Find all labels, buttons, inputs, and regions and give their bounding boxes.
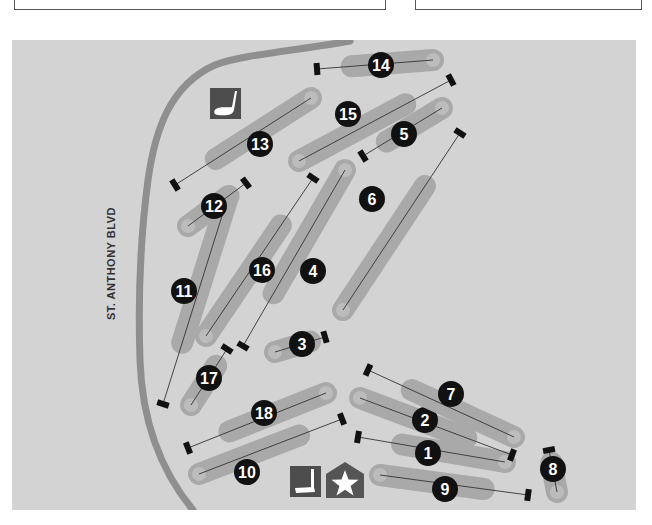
hole-14[interactable]: 14 <box>314 52 440 78</box>
hole-13[interactable]: 13 <box>169 91 318 192</box>
holes-layer: 123456789101112131415161718 <box>156 52 566 502</box>
putter-icon[interactable] <box>290 466 321 497</box>
tee-box <box>314 63 321 75</box>
top-right-panel <box>415 0 642 10</box>
tee-box <box>363 363 373 376</box>
tee-box <box>220 343 233 355</box>
tee-box <box>183 441 193 454</box>
hole-number: 18 <box>255 405 273 422</box>
line-of-play <box>343 133 460 310</box>
hole-number: 17 <box>200 370 218 387</box>
driving-range-icon[interactable] <box>210 88 241 119</box>
course-map: 123456789101112131415161718 ST. ANTHONY … <box>12 40 636 510</box>
hole-number: 1 <box>424 445 433 462</box>
hole-number: 7 <box>447 386 456 403</box>
hole-number: 10 <box>238 464 256 481</box>
hole-8[interactable]: 8 <box>540 446 566 499</box>
tee-box <box>169 178 181 191</box>
hole-number: 12 <box>205 198 223 215</box>
tee-box <box>236 340 249 351</box>
tee-box <box>240 176 252 189</box>
tee-box <box>446 73 457 86</box>
tee-box <box>306 172 319 184</box>
road-label: ST. ANTHONY BLVD <box>105 207 117 320</box>
hole-number: 8 <box>549 461 558 478</box>
top-left-panel <box>14 0 386 10</box>
hole-number: 13 <box>251 136 269 153</box>
tee-box <box>337 412 347 425</box>
hole-6[interactable]: 6 <box>336 127 467 317</box>
hole-number: 2 <box>421 412 430 429</box>
hole-number: 16 <box>253 262 271 279</box>
tee-box <box>156 399 169 408</box>
hole-17[interactable]: 17 <box>184 343 234 412</box>
hole-3[interactable]: 3 <box>268 330 330 359</box>
hole-number: 11 <box>176 283 193 300</box>
hole-9[interactable]: 9 <box>373 468 532 502</box>
hole-number: 4 <box>309 263 318 280</box>
tee-box <box>354 431 362 444</box>
hole-number: 14 <box>372 57 390 74</box>
tee-box <box>357 149 368 162</box>
hole-number: 9 <box>441 481 450 498</box>
clubhouse-star-icon[interactable] <box>326 462 364 498</box>
line-of-play <box>175 98 311 185</box>
hole-number: 15 <box>339 106 357 123</box>
tee-box <box>524 489 532 502</box>
hole-number: 3 <box>298 336 307 353</box>
hole-number: 6 <box>368 191 377 208</box>
hole-number: 5 <box>400 126 409 143</box>
tee-box <box>453 127 466 139</box>
tee-box <box>320 330 329 343</box>
